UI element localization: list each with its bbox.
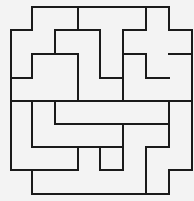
tiling-diagram [0, 0, 194, 201]
tile-borders [11, 7, 192, 194]
